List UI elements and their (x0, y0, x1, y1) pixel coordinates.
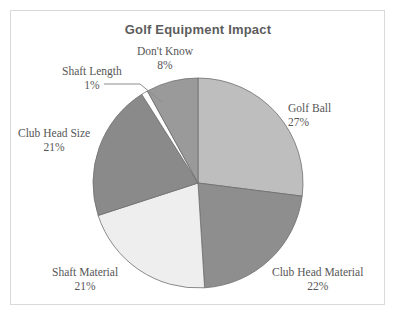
slice-label-club-head-material-name: Club Head Material (272, 265, 363, 279)
slice-label-shaft-material-percent: 21% (52, 279, 118, 293)
slice-label-club-head-size: Club Head Size 21% (18, 126, 90, 154)
slice-label-club-head-size-percent: 21% (18, 140, 90, 154)
pie-chart-figure: Golf Equipment Impact Golf Ball 27% Club… (0, 0, 396, 322)
slice-label-club-head-material: Club Head Material 22% (272, 265, 363, 293)
pie-slice (198, 78, 303, 196)
slice-label-shaft-length-name: Shaft Length (62, 64, 122, 78)
slice-label-club-head-material-percent: 22% (272, 279, 363, 293)
slice-label-club-head-size-name: Club Head Size (18, 126, 90, 140)
slice-label-shaft-material-name: Shaft Material (52, 265, 118, 279)
slice-label-shaft-length-percent: 1% (62, 78, 122, 92)
slice-label-dont-know-percent: 8% (137, 58, 193, 72)
slice-label-dont-know-name: Don't Know (137, 44, 193, 58)
slice-label-shaft-material: Shaft Material 21% (52, 265, 118, 293)
slice-label-golf-ball-name: Golf Ball (288, 101, 331, 115)
slice-label-dont-know: Don't Know 8% (137, 44, 193, 72)
slice-label-golf-ball-percent: 27% (288, 115, 331, 129)
slice-label-shaft-length: Shaft Length 1% (62, 64, 122, 92)
pie-slices-group (93, 78, 303, 288)
slice-label-golf-ball: Golf Ball 27% (288, 101, 331, 129)
